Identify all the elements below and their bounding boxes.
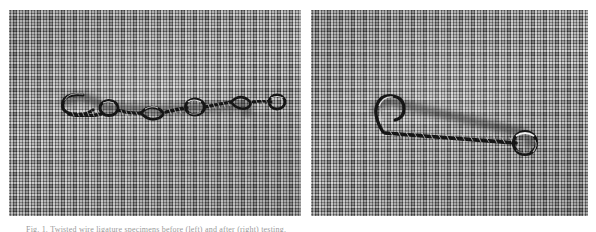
photo-panel-left [9,10,301,216]
photo-panel-right [311,10,588,216]
wire-specimen-left [9,10,301,216]
figure-container: Fig. 1. Twisted wire ligature specimens … [0,0,596,232]
figure-caption: Fig. 1. Twisted wire ligature specimens … [26,225,566,232]
wire-specimen-right [311,10,588,216]
